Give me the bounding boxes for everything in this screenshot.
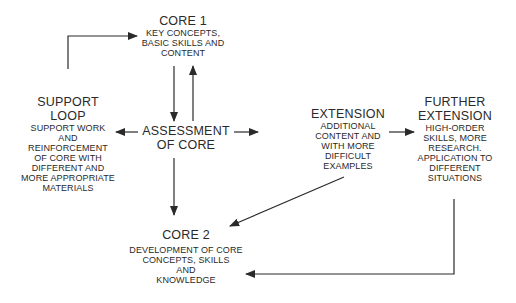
core1-line: CONTENT bbox=[134, 48, 232, 58]
core1-line: BASIC SKILLS AND bbox=[134, 38, 232, 48]
further-title-line1: FURTHER bbox=[410, 95, 500, 109]
further-line: SKILLS, MORE bbox=[410, 133, 500, 143]
support-line: SUPPORT WORK bbox=[18, 123, 118, 133]
arrow-extension-to-core2 bbox=[230, 177, 344, 226]
assessment-title-line1: ASSESSMENT bbox=[138, 124, 234, 138]
core1-line: KEY CONCEPTS, bbox=[134, 28, 232, 38]
core2-description: DEVELOPMENT OF CORE CONCEPTS, SKILLS AND… bbox=[126, 245, 246, 285]
core2-line: CONCEPTS, SKILLS bbox=[126, 255, 246, 265]
support-line: MATERIALS bbox=[18, 183, 118, 193]
further-line: HIGH-ORDER bbox=[410, 123, 500, 133]
core1-description: KEY CONCEPTS, BASIC SKILLS AND CONTENT bbox=[134, 28, 232, 58]
further-title-line2: EXTENSION bbox=[410, 109, 500, 123]
node-further-extension: FURTHER EXTENSION HIGH-ORDER SKILLS, MOR… bbox=[410, 95, 500, 183]
core2-line: KNOWLEDGE bbox=[126, 275, 246, 285]
node-extension: EXTENSION ADDITIONAL CONTENT AND WITH MO… bbox=[306, 107, 390, 171]
support-line: DIFFERENT AND bbox=[18, 163, 118, 173]
core2-line: AND bbox=[126, 265, 246, 275]
further-line: APPLICATION TO bbox=[410, 153, 500, 163]
extension-line: EXAMPLES bbox=[306, 161, 390, 171]
core1-title: CORE 1 bbox=[134, 14, 232, 28]
support-line: OF CORE WITH bbox=[18, 153, 118, 163]
extension-line: DIFFICULT bbox=[306, 151, 390, 161]
support-line: MORE APPROPRIATE bbox=[18, 173, 118, 183]
support-line: AND bbox=[18, 133, 118, 143]
further-line: DIFFERENT bbox=[410, 163, 500, 173]
extension-line: WITH MORE bbox=[306, 141, 390, 151]
node-support-loop: SUPPORT LOOP SUPPORT WORK AND REINFORCEM… bbox=[18, 95, 118, 194]
node-assessment: ASSESSMENT OF CORE bbox=[138, 124, 234, 152]
support-description: SUPPORT WORK AND REINFORCEMENT OF CORE W… bbox=[18, 123, 118, 194]
extension-description: ADDITIONAL CONTENT AND WITH MORE DIFFICU… bbox=[306, 121, 390, 171]
core2-line: DEVELOPMENT OF CORE bbox=[126, 245, 246, 255]
support-title-line1: SUPPORT bbox=[18, 95, 118, 109]
extension-line: CONTENT AND bbox=[306, 131, 390, 141]
support-line: REINFORCEMENT bbox=[18, 143, 118, 153]
further-description: HIGH-ORDER SKILLS, MORE RESEARCH. APPLIC… bbox=[410, 123, 500, 183]
core2-title: CORE 2 bbox=[126, 228, 246, 242]
arrow-further-to-core2 bbox=[246, 199, 454, 274]
node-core2: CORE 2 DEVELOPMENT OF CORE CONCEPTS, SKI… bbox=[126, 228, 246, 285]
further-line: SITUATIONS bbox=[410, 173, 500, 183]
node-core1: CORE 1 KEY CONCEPTS, BASIC SKILLS AND CO… bbox=[134, 14, 232, 58]
arrow-support-to-core1 bbox=[68, 36, 137, 69]
extension-line: ADDITIONAL bbox=[306, 121, 390, 131]
further-line: RESEARCH. bbox=[410, 143, 500, 153]
extension-title: EXTENSION bbox=[306, 107, 390, 121]
support-title-line2: LOOP bbox=[18, 109, 118, 123]
assessment-title-line2: OF CORE bbox=[138, 138, 234, 152]
